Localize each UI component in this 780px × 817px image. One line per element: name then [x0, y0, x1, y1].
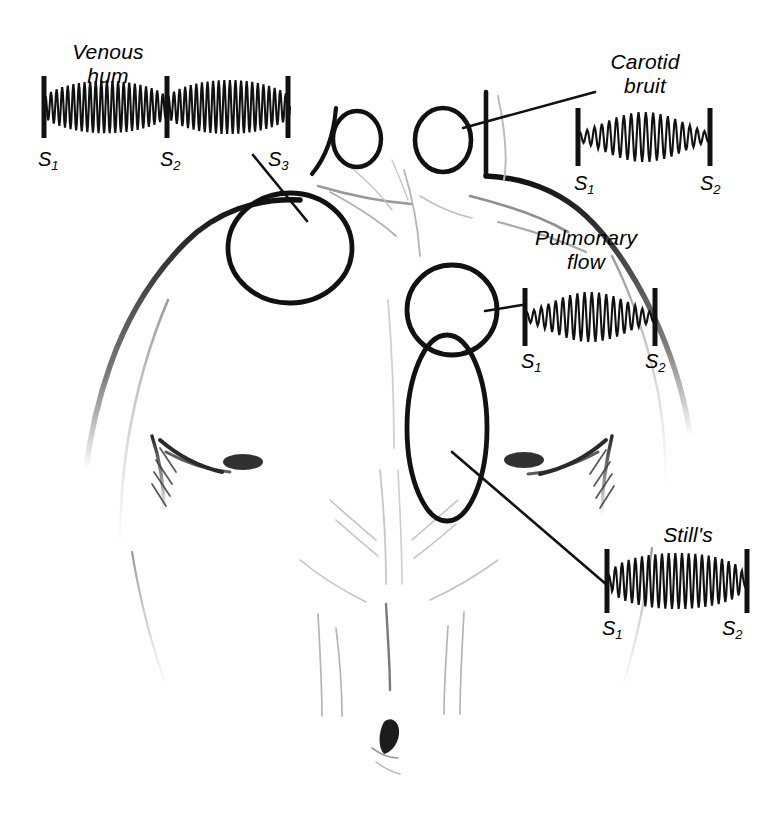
site-ellipse-stills [407, 335, 487, 521]
phonocardiogram-traces [44, 76, 747, 613]
heart-sound-label-pulmonary-flow-s2: S2 [645, 350, 666, 373]
leader-stills [452, 452, 607, 585]
site-circle-venous-hum [228, 193, 352, 303]
heart-sound-label-pulmonary-flow-s1: S1 [521, 350, 542, 373]
murmur-label-pulmonary-flow: Pulmonary flow [535, 226, 637, 273]
site-circle-pulmonary [407, 265, 497, 355]
heart-sound-label-venous-hum-s1: S1 [38, 148, 59, 171]
heart-sound-label-stills-s1: S1 [602, 617, 623, 640]
heart-sound-label-stills-s2: S2 [722, 617, 743, 640]
leader-pulmonary-flow [485, 305, 522, 311]
site-circle-neck-left [333, 111, 381, 167]
murmur-label-venous-hum: Venous hum [72, 40, 144, 87]
figure-canvas: Venous hum Carotid bruit Pulmonary flow … [0, 0, 780, 817]
torso-outline [86, 92, 690, 774]
heart-sound-label-venous-hum-s2: S2 [160, 148, 181, 171]
murmur-label-carotid-bruit: Carotid bruit [610, 50, 679, 97]
murmur-waveform-stills [607, 553, 747, 609]
anatomy-illustration [0, 0, 780, 817]
site-circle-carotid [415, 108, 471, 172]
heart-sound-label-carotid-bruit-s1: S1 [574, 172, 595, 195]
murmur-waveform-pulmonary-flow [525, 292, 655, 342]
leader-carotid-bruit [463, 92, 595, 128]
heart-sound-label-carotid-bruit-s2: S2 [700, 172, 721, 195]
heart-sound-label-venous-hum-s3: S3 [268, 148, 289, 171]
murmur-waveform-carotid-bruit [578, 112, 710, 162]
murmur-label-stills: Still's [663, 523, 713, 547]
